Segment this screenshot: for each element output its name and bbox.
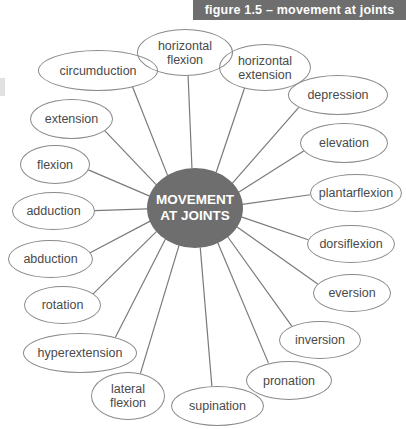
edge-rotation [93, 231, 157, 293]
node-supination: supination [171, 386, 264, 426]
edge-extension [105, 131, 157, 185]
edge-flexion [88, 170, 149, 196]
node-rotation: rotation [24, 286, 101, 324]
node-abduction: abduction [8, 240, 93, 278]
edge-eversion [237, 227, 318, 284]
node-flexion: flexion [20, 145, 90, 184]
edge-inversion [228, 237, 292, 326]
node-elevation: elevation [300, 123, 388, 163]
edge-hyperextension [115, 239, 165, 337]
node-lateral-flexion: lateral flexion [91, 372, 165, 420]
edge-horizontal-extension [216, 88, 244, 172]
node-extension: extension [30, 99, 113, 139]
edge-pronation [218, 243, 269, 363]
edge-abduction [90, 221, 150, 253]
node-circumduction: circumduction [38, 50, 158, 91]
figure-page: figure 1.5 – movement at joints MOVEMENT… [0, 0, 406, 429]
edge-horizontal-flexion [188, 75, 192, 168]
node-plantarflexion: plantarflexion [310, 174, 402, 212]
edge-elevation [239, 151, 304, 192]
node-hyperextension: hyperextension [23, 333, 137, 373]
node-eversion: eversion [313, 274, 391, 312]
edge-depression [232, 107, 298, 183]
edge-lateral-flexion [140, 245, 179, 373]
node-depression: depression [288, 75, 388, 115]
edge-plantarflexion [242, 195, 310, 205]
edge-dorsiflexion [241, 217, 308, 240]
node-adduction: adduction [12, 192, 95, 230]
node-dorsiflexion: dorsiflexion [307, 225, 395, 263]
edge-circumduction [133, 87, 168, 176]
center-node-movement-at-joints: MOVEMENT AT JOINTS [147, 168, 243, 248]
node-inversion: inversion [279, 321, 361, 359]
node-pronation: pronation [246, 361, 332, 400]
edge-supination [200, 247, 212, 386]
edge-adduction [94, 209, 147, 211]
